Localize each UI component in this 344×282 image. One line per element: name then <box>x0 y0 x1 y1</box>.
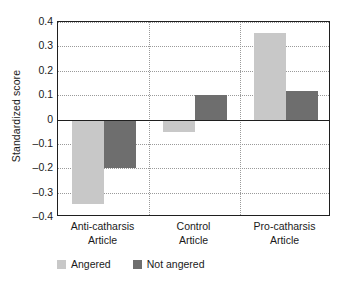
y-axis-tick-labels: 0.40.30.20.10–0.1–0.2–0.3–0.4 <box>15 21 53 216</box>
y-tick-label: 0.3 <box>19 40 53 50</box>
x-category-label-line: Pro-catharsis <box>239 220 330 234</box>
x-category-label: ControlArticle <box>148 220 239 247</box>
legend-label: Angered <box>71 258 111 270</box>
bar <box>195 95 227 119</box>
y-tick-label: –0.1 <box>19 138 53 148</box>
x-category-label-line: Article <box>239 234 330 248</box>
y-tick-label: –0.2 <box>19 162 53 172</box>
group-separator <box>149 22 150 215</box>
bar <box>286 91 318 119</box>
bar-chart: Standardized score 0.40.30.20.10–0.1–0.2… <box>0 0 344 282</box>
plot-area <box>57 21 330 216</box>
bar <box>163 120 195 132</box>
x-category-label: Pro-catharsisArticle <box>239 220 330 247</box>
gridline-y <box>58 22 329 23</box>
legend-label: Not angered <box>147 258 205 270</box>
bar <box>104 120 136 169</box>
legend-swatch-icon <box>133 260 142 269</box>
x-category-label-line: Anti-catharsis <box>57 220 148 234</box>
y-tick-label: 0.4 <box>19 16 53 26</box>
bar <box>72 120 104 204</box>
y-tick-label: –0.4 <box>19 211 53 221</box>
x-category-label: Anti-catharsisArticle <box>57 220 148 247</box>
legend-swatch-icon <box>57 260 66 269</box>
chart-legend: AngeredNot angered <box>57 256 330 272</box>
legend-item[interactable]: Angered <box>57 258 111 270</box>
y-tick-label: 0 <box>19 114 53 124</box>
x-category-label-line: Control <box>148 220 239 234</box>
y-tick-label: 0.2 <box>19 65 53 75</box>
y-tick-label: 0.1 <box>19 89 53 99</box>
gridline-y <box>58 71 329 72</box>
x-category-label-line: Article <box>148 234 239 248</box>
legend-item[interactable]: Not angered <box>133 258 205 270</box>
zero-line <box>58 120 329 121</box>
x-category-label-line: Article <box>57 234 148 248</box>
gridline-y <box>58 46 329 47</box>
x-axis-category-labels: Anti-catharsisArticleControlArticlePro-c… <box>57 220 330 252</box>
y-tick-label: –0.3 <box>19 187 53 197</box>
bar <box>254 33 286 120</box>
group-separator <box>240 22 241 215</box>
plot-inner <box>58 22 329 215</box>
